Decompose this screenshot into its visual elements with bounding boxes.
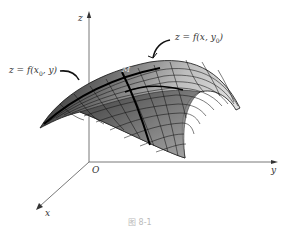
y-axis-arrow-icon	[271, 160, 278, 164]
annotation-text: z = f(x	[9, 65, 39, 75]
annotation-tail: )	[220, 32, 224, 42]
surface-diagram: z y x O z = f(x0, y) z = f(x, y0) M 图 8-…	[0, 0, 286, 227]
surface	[40, 60, 240, 158]
annotation-curve-y0: z = f(x, y0)	[175, 33, 223, 44]
origin-label: O	[92, 166, 99, 175]
annotation-text: z = f(x, y	[175, 32, 216, 42]
y-axis-label: y	[271, 166, 276, 175]
annotation-curve-x0: z = f(x0, y)	[9, 66, 57, 77]
diagram-canvas	[0, 0, 286, 227]
z-axis-label: z	[78, 14, 83, 23]
x-axis	[40, 162, 89, 206]
figure-caption: 图 8-1	[128, 219, 152, 227]
annotation-tail: , y)	[43, 65, 57, 75]
z-axis-arrow-icon	[87, 11, 91, 18]
point-m-label: M	[122, 66, 130, 74]
leader-arrow-x0	[60, 71, 79, 80]
x-axis-label: x	[45, 209, 50, 218]
